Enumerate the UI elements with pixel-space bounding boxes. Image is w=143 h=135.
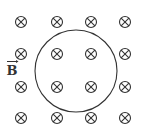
into-page-symbol-icon [52, 49, 63, 60]
field-symbol-grid [16, 17, 131, 124]
into-page-symbol-icon [120, 82, 131, 93]
into-page-symbol-icon [16, 113, 27, 124]
conducting-loop [35, 30, 117, 112]
into-page-symbol-icon [86, 17, 97, 28]
into-page-symbol-icon [120, 49, 131, 60]
magnetic-field-diagram: B [0, 0, 143, 135]
into-page-symbol-icon [86, 82, 97, 93]
into-page-symbol-icon [16, 49, 27, 60]
field-label: B [7, 63, 18, 78]
into-page-symbol-icon [16, 17, 27, 28]
into-page-symbol-icon [52, 82, 63, 93]
into-page-symbol-icon [120, 17, 131, 28]
into-page-symbol-icon [52, 17, 63, 28]
into-page-symbol-icon [86, 113, 97, 124]
into-page-symbol-icon [16, 82, 27, 93]
into-page-symbol-icon [52, 113, 63, 124]
into-page-symbol-icon [86, 49, 97, 60]
into-page-symbol-icon [120, 113, 131, 124]
